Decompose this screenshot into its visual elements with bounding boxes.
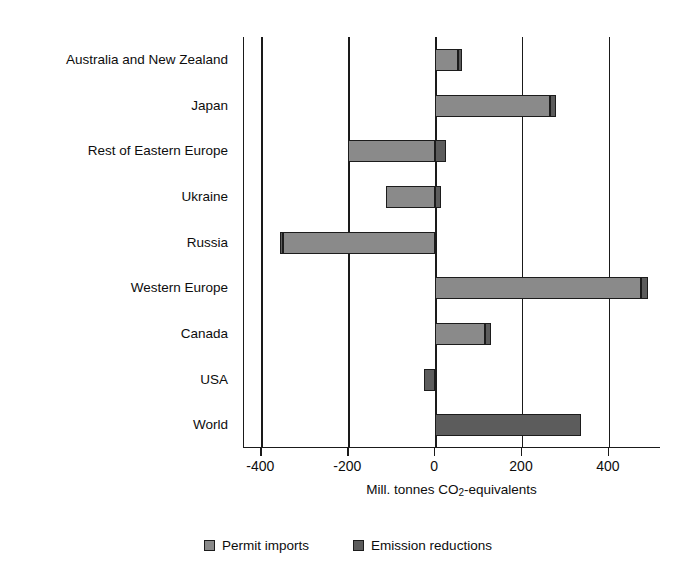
- x-axis-title-post: -equivalents: [464, 482, 537, 497]
- bar-segment-emission-reductions: [280, 232, 283, 254]
- legend-swatch-icon: [204, 540, 215, 551]
- x-tick-label: -200: [333, 458, 361, 474]
- x-tick-label: 400: [596, 458, 619, 474]
- category-axis-labels: Australia and New ZealandJapanRest of Ea…: [0, 37, 236, 448]
- bar-segment-permit-imports: [348, 140, 435, 162]
- bar-segment-emission-reductions: [550, 95, 556, 117]
- x-tick: [260, 448, 261, 456]
- bar-group: [244, 140, 660, 162]
- bar-segment-emission-reductions: [424, 369, 435, 391]
- bar-segment-emission-reductions: [435, 140, 446, 162]
- x-axis-tick-labels: -400-2000200400: [243, 458, 660, 478]
- category-label: USA: [0, 373, 228, 387]
- category-label: Ukraine: [0, 190, 228, 204]
- bar-segment-emission-reductions: [458, 49, 463, 71]
- bar-segment-permit-imports: [435, 95, 550, 117]
- legend-item[interactable]: Emission reductions: [353, 538, 492, 553]
- bar-group: [244, 95, 660, 117]
- bar-segment-permit-imports: [283, 232, 435, 254]
- category-label: Western Europe: [0, 281, 228, 295]
- x-axis-title-pre: Mill. tonnes CO: [366, 482, 458, 497]
- bar-chart: Australia and New ZealandJapanRest of Ea…: [0, 0, 696, 567]
- category-label: Australia and New Zealand: [0, 53, 228, 67]
- bar-segment-emission-reductions: [485, 323, 491, 345]
- bar-segment-permit-imports: [435, 323, 485, 345]
- x-tick: [608, 448, 609, 456]
- category-label: World: [0, 418, 228, 432]
- bar-group: [244, 323, 660, 345]
- bar-group: [244, 414, 660, 436]
- x-axis-ticks: [243, 448, 660, 458]
- x-axis-title: Mill. tonnes CO2-equivalents: [243, 482, 660, 497]
- bar-segment-permit-imports: [435, 49, 458, 71]
- bar-group: [244, 369, 660, 391]
- bar-segment-permit-imports: [386, 186, 435, 208]
- x-tick: [521, 448, 522, 456]
- bar-group: [244, 277, 660, 299]
- chart-legend: Permit importsEmission reductions: [0, 538, 696, 553]
- x-axis-title-subscript: 2: [458, 487, 464, 498]
- legend-swatch-icon: [353, 540, 364, 551]
- category-label: Rest of Eastern Europe: [0, 144, 228, 158]
- bar-group: [244, 186, 660, 208]
- category-label: Canada: [0, 327, 228, 341]
- x-tick-label: 0: [430, 458, 438, 474]
- bar-segment-emission-reductions: [435, 186, 441, 208]
- bar-segment-emission-reductions: [435, 414, 581, 436]
- category-label: Russia: [0, 236, 228, 250]
- legend-label: Emission reductions: [371, 538, 492, 553]
- bar-segment-emission-reductions: [641, 277, 648, 299]
- legend-item[interactable]: Permit imports: [204, 538, 309, 553]
- bar-group: [244, 232, 660, 254]
- x-tick: [347, 448, 348, 456]
- category-label: Japan: [0, 99, 228, 113]
- legend-label: Permit imports: [222, 538, 309, 553]
- x-tick-label: 200: [509, 458, 532, 474]
- bar-group: [244, 49, 660, 71]
- bar-segment-permit-imports: [435, 277, 641, 299]
- plot-area: [243, 37, 660, 448]
- x-tick: [434, 448, 435, 456]
- x-tick-label: -400: [246, 458, 274, 474]
